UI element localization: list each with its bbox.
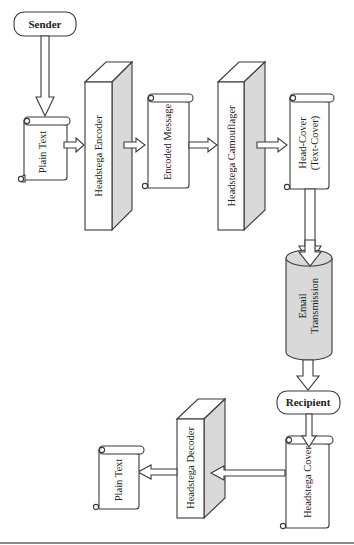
arrow-cover-to-decoder [211,466,285,480]
arrow-encoded-to-camouflager [189,138,217,152]
encoded-message-scroll: Encoded Message [142,94,193,189]
flow-diagram: Sender Plain Text Headstega Encoder Enco… [0,0,354,545]
headstega-cover-scroll: Headstega Cover [280,436,333,529]
plain-text-output-scroll: Plain Text [93,446,144,510]
email-label-2: Transmission [309,277,320,334]
email-transmission-cylinder: Email Transmission [286,240,332,360]
decoder-block: Headstega Decoder [177,399,225,518]
head-cover-label-2: (Text-Cover) [309,115,321,170]
headstega-cover-label: Headstega Cover [302,445,313,518]
arrow-sender-to-plaintext [36,36,54,116]
sender-node: Sender [14,12,76,36]
plain-text-input-scroll: Plain Text [18,117,70,182]
bottom-rule [0,542,354,544]
sender-label: Sender [29,18,62,30]
arrow-email-to-recipient [297,360,319,390]
plain-text-input-label: Plain Text [37,131,48,174]
camouflager-label: Headstega Camouflager [226,105,237,207]
arrow-decoder-to-plaintext [138,465,177,479]
head-cover-label-1: Head-Cover [297,117,308,169]
encoded-message-label: Encoded Message [162,104,173,180]
recipient-label: Recipient [286,396,331,408]
head-cover-scroll: Head-Cover (Text-Cover) [284,94,334,190]
decoder-label: Headstega Decoder [185,427,196,509]
encoder-label: Headstega Encoder [93,115,104,197]
email-label-1: Email [297,293,308,318]
plain-text-output-label: Plain Text [113,459,124,502]
recipient-node: Recipient [277,391,340,414]
